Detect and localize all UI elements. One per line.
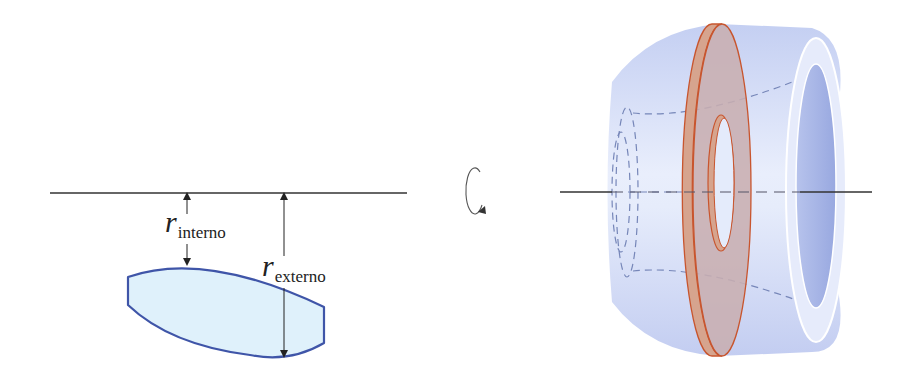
washer-method-figure: rinterno rexterno: [0, 0, 912, 388]
solid-of-revolution-panel: [560, 24, 872, 356]
washer-slab: [682, 24, 751, 356]
right-end-hole: [796, 64, 836, 308]
outer-radius-label: rexterno: [262, 249, 326, 286]
rotation-arrow-icon: [466, 168, 486, 214]
inner-radius-subscript: interno: [178, 223, 226, 242]
washer-hole: [714, 118, 734, 248]
outer-radius-subscript: externo: [275, 267, 326, 286]
inner-radius-label: rinterno: [165, 205, 226, 242]
region-cross-section-panel: rinterno rexterno: [50, 193, 407, 357]
inner-radius-dimension: rinterno: [165, 196, 226, 262]
